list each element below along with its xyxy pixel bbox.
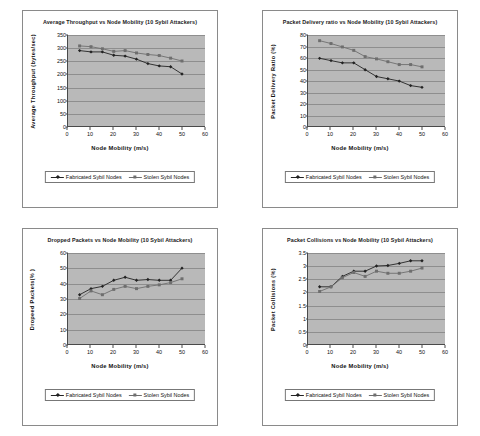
- square-marker-icon: [158, 283, 161, 286]
- x-axis-label: Node Mobility (m/s): [263, 145, 457, 151]
- y-axis-tick-label: 250: [57, 58, 66, 64]
- diamond-marker-icon: [112, 279, 115, 282]
- square-marker-icon: [421, 65, 424, 68]
- legend-item-fabricated: Fabricated Sybil Nodes: [291, 392, 362, 398]
- square-marker-icon: [409, 63, 412, 66]
- plot-area: 01020304050607080: [307, 35, 445, 127]
- x-axis-ticks: 0102030405060: [307, 131, 445, 141]
- x-axis-tick-label: 20: [110, 349, 116, 355]
- x-axis-tick-label: 30: [133, 131, 139, 137]
- y-axis-label-text: Packet Delivery Ratio (%): [270, 44, 277, 119]
- square-marker-icon: [134, 394, 137, 397]
- square-marker-icon: [341, 45, 344, 48]
- y-axis-label-text: Average Throughput (bytes/sec): [30, 34, 37, 129]
- legend-line-stolen-icon: [369, 395, 382, 396]
- y-axis-tick-label: 3.5: [299, 250, 307, 256]
- y-axis-label-text: Dropeed Packets(% ): [30, 268, 37, 329]
- diamond-marker-icon: [409, 84, 412, 87]
- square-marker-icon: [181, 277, 184, 280]
- series-line: [320, 41, 422, 67]
- x-axis-label: Node Mobility (m/s): [23, 363, 217, 369]
- diamond-marker-icon: [318, 285, 321, 288]
- square-marker-icon: [124, 285, 127, 288]
- diamond-marker-icon: [146, 62, 149, 65]
- x-axis-tick-mark: [399, 127, 400, 130]
- diamond-marker-icon: [386, 77, 389, 80]
- x-axis-tick-label: 60: [442, 131, 448, 137]
- chart-cell-1: Packet Delivery ratio vs Node Mobility (…: [240, 0, 480, 218]
- x-axis-tick-mark: [182, 345, 183, 348]
- y-axis-tick-label: 1.5: [299, 303, 307, 309]
- series-line: [80, 46, 182, 61]
- x-axis-tick-label: 0: [306, 131, 309, 137]
- legend-line-fabricated-icon: [291, 395, 304, 396]
- square-marker-icon: [158, 54, 161, 57]
- legend: Fabricated Sybil Nodes Stolen Sybil Node…: [285, 389, 435, 401]
- diamond-marker-icon: [55, 393, 59, 397]
- series-plot: [308, 253, 445, 344]
- legend: Fabricated Sybil Nodes Stolen Sybil Node…: [45, 171, 195, 183]
- legend-label-fabricated: Fabricated Sybil Nodes: [306, 174, 362, 180]
- x-axis-tick-label: 50: [179, 131, 185, 137]
- diamond-marker-icon: [135, 279, 138, 282]
- x-axis-tick-label: 60: [442, 349, 448, 355]
- y-axis-label: Average Throughput (bytes/sec): [27, 35, 39, 127]
- legend-line-fabricated-icon: [51, 177, 64, 178]
- chart-average-throughput: Average Throughput vs Node Mobility (10 …: [22, 10, 218, 208]
- legend-item-fabricated: Fabricated Sybil Nodes: [51, 174, 122, 180]
- legend-item-stolen: Stolen Sybil Nodes: [369, 174, 430, 180]
- x-axis-tick-mark: [445, 127, 446, 130]
- square-marker-icon: [374, 394, 377, 397]
- legend: Fabricated Sybil Nodes Stolen Sybil Node…: [45, 389, 195, 401]
- plot-area: 00.511.522.533.5: [307, 253, 445, 345]
- x-axis-tick-label: 10: [87, 131, 93, 137]
- x-axis-tick-label: 0: [66, 349, 69, 355]
- x-axis-tick-label: 30: [133, 349, 139, 355]
- legend-label-stolen: Stolen Sybil Nodes: [144, 392, 190, 398]
- chart-title: Average Throughput vs Node Mobility (10 …: [23, 19, 217, 26]
- diamond-marker-icon: [89, 50, 92, 53]
- diamond-marker-icon: [101, 285, 104, 288]
- legend-label-fabricated: Fabricated Sybil Nodes: [66, 174, 122, 180]
- legend: Fabricated Sybil Nodes Stolen Sybil Node…: [285, 171, 435, 183]
- diamond-marker-icon: [295, 393, 299, 397]
- legend-line-fabricated-icon: [291, 177, 304, 178]
- x-axis-tick-label: 30: [373, 349, 379, 355]
- y-axis-label: Packet Delivery Ratio (%): [267, 35, 279, 127]
- x-axis-tick-mark: [182, 127, 183, 130]
- square-marker-icon: [386, 60, 389, 63]
- y-axis-label-text: Packet Collisions (%): [270, 268, 277, 331]
- legend-item-stolen: Stolen Sybil Nodes: [129, 392, 190, 398]
- square-marker-icon: [112, 288, 115, 291]
- diamond-marker-icon: [123, 54, 126, 57]
- square-marker-icon: [146, 285, 149, 288]
- x-axis-tick-mark: [376, 345, 377, 348]
- x-axis-tick-label: 60: [202, 131, 208, 137]
- x-axis-tick-label: 50: [179, 349, 185, 355]
- diamond-marker-icon: [123, 276, 126, 279]
- y-axis-label: Packet Collisions (%): [267, 253, 279, 345]
- x-axis-tick-label: 50: [419, 349, 425, 355]
- x-axis-tick-mark: [90, 127, 91, 130]
- diamond-marker-icon: [409, 259, 412, 262]
- square-marker-icon: [341, 276, 344, 279]
- x-axis-tick-label: 50: [419, 131, 425, 137]
- square-marker-icon: [78, 297, 81, 300]
- series-plot: [68, 35, 205, 126]
- x-axis-tick-mark: [307, 127, 308, 130]
- legend-label-stolen: Stolen Sybil Nodes: [144, 174, 190, 180]
- x-axis-tick-mark: [136, 127, 137, 130]
- series-line: [320, 268, 422, 291]
- x-axis-tick-mark: [113, 127, 114, 130]
- square-marker-icon: [134, 176, 137, 179]
- legend-item-stolen: Stolen Sybil Nodes: [369, 392, 430, 398]
- chart-packet-delivery-ratio: Packet Delivery ratio vs Node Mobility (…: [262, 10, 458, 208]
- diamond-marker-icon: [318, 57, 321, 60]
- x-axis-tick-mark: [399, 345, 400, 348]
- square-marker-icon: [352, 49, 355, 52]
- square-marker-icon: [330, 285, 333, 288]
- diamond-marker-icon: [375, 264, 378, 267]
- chart-cell-2: Dropped Packets vs Node Mobility (10 Syb…: [0, 218, 240, 436]
- diamond-marker-icon: [329, 59, 332, 62]
- y-axis-tick-label: 150: [57, 85, 66, 91]
